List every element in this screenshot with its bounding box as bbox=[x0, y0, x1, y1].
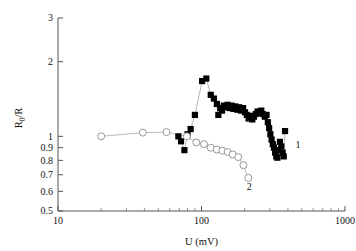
x-axis-tick-labels: 101001000 bbox=[53, 215, 355, 226]
data-point-square bbox=[203, 75, 209, 81]
y-tick-label: 0.7 bbox=[41, 169, 54, 180]
chart-canvas: 101001000 0.50.60.70.80.9123 12 U (mV) R… bbox=[0, 0, 356, 251]
y-axis-title-tail: /R bbox=[13, 108, 24, 118]
data-point-square bbox=[188, 126, 194, 132]
y-tick-label: 1 bbox=[48, 131, 53, 142]
data-point-square bbox=[267, 131, 273, 137]
data-point-square bbox=[178, 138, 184, 144]
svg-text:R0/R: R0/R bbox=[13, 108, 27, 129]
series-markers bbox=[98, 75, 288, 181]
data-point-circle bbox=[183, 133, 190, 140]
x-tick-label: 1000 bbox=[335, 215, 355, 226]
axes-group bbox=[58, 18, 345, 211]
data-point-circle bbox=[235, 154, 242, 161]
data-point-square bbox=[282, 128, 288, 134]
x-axis-ticks bbox=[58, 206, 345, 211]
data-point-circle bbox=[98, 133, 105, 140]
data-point-circle bbox=[240, 162, 247, 169]
series-label-2: 2 bbox=[247, 181, 252, 192]
y-tick-label: 0.8 bbox=[41, 155, 54, 166]
y-tick-label: 0.6 bbox=[41, 186, 54, 197]
data-point-square bbox=[211, 95, 217, 101]
series-label-1: 1 bbox=[295, 139, 300, 150]
y-tick-label: 0.5 bbox=[41, 205, 54, 216]
data-point-square bbox=[265, 119, 271, 125]
x-tick-label: 100 bbox=[194, 215, 209, 226]
data-point-square bbox=[274, 155, 280, 161]
data-point-square bbox=[266, 125, 272, 131]
y-axis-tick-labels: 0.50.60.70.80.9123 bbox=[41, 12, 54, 216]
x-axis-title: U (mV) bbox=[185, 236, 218, 248]
x-tick-label: 10 bbox=[53, 215, 63, 226]
data-point-circle bbox=[200, 141, 207, 148]
y-tick-label: 3 bbox=[48, 12, 53, 23]
y-tick-label: 2 bbox=[48, 56, 53, 67]
data-point-square bbox=[278, 143, 284, 149]
y-axis-title: R0/R bbox=[13, 108, 27, 129]
data-point-circle bbox=[139, 129, 146, 136]
figure-container: 101001000 0.50.60.70.80.9123 12 U (mV) R… bbox=[0, 0, 356, 251]
data-point-square bbox=[281, 153, 287, 159]
y-axis-ticks bbox=[58, 18, 63, 211]
data-point-square bbox=[263, 112, 269, 118]
y-axis-title-base: R bbox=[13, 121, 24, 128]
y-tick-label: 0.9 bbox=[41, 142, 54, 153]
data-point-circle bbox=[245, 174, 252, 181]
data-point-circle bbox=[193, 139, 200, 146]
data-point-square bbox=[181, 147, 187, 153]
data-point-circle bbox=[163, 129, 170, 136]
data-point-square bbox=[192, 112, 198, 118]
